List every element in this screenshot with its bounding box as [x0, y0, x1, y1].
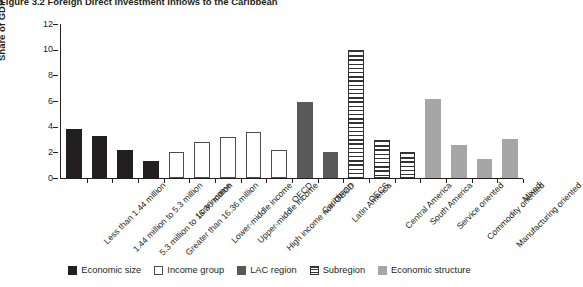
legend-swatch-icon	[154, 266, 163, 275]
legend-item-lac[interactable]: LAC region	[237, 265, 297, 275]
bar-subregion[interactable]	[374, 140, 390, 179]
legend-item-label: Economic size	[81, 265, 141, 275]
figure-title-text: Figure 3.2 Foreign Direct Investment Inf…	[0, 0, 278, 7]
y-axis-tick-labels: 024681012	[27, 24, 53, 179]
bar-income[interactable]	[194, 142, 210, 178]
bar-lac[interactable]	[323, 152, 339, 178]
y-axis-title: Share of GDP, %	[0, 0, 7, 61]
legend-swatch-icon	[378, 266, 387, 275]
y-tick-label: 12	[27, 20, 53, 29]
bar-structure[interactable]	[425, 99, 441, 178]
legend-item-label: LAC region	[250, 265, 297, 275]
legend-item-size[interactable]: Economic size	[68, 265, 141, 275]
bar-size[interactable]	[143, 161, 159, 178]
y-tick-label: 4	[27, 122, 53, 131]
x-axis-tick-labels: Less than 1.44 million1.44 million to 5.…	[0, 181, 539, 259]
y-tick-mark	[53, 75, 58, 76]
y-tick-mark	[53, 178, 58, 179]
y-tick-mark	[53, 127, 58, 128]
legend-item-subregion[interactable]: Subregion	[310, 265, 365, 275]
legend-item-income[interactable]: Income group	[154, 265, 224, 275]
y-tick-label: 6	[27, 97, 53, 106]
bar-structure[interactable]	[477, 159, 493, 178]
legend-item-label: Subregion	[323, 265, 365, 275]
bar-chart: Share of GDP, % 024681012 Less than 1.44…	[0, 9, 539, 257]
bar-structure[interactable]	[451, 145, 467, 178]
legend-swatch-icon	[237, 266, 246, 275]
x-tick-label: Caribbean	[320, 181, 354, 215]
legend-item-label: Income group	[167, 265, 224, 275]
bar-income[interactable]	[220, 137, 236, 178]
bar-income[interactable]	[169, 152, 185, 178]
plot-area	[61, 24, 523, 178]
y-tick-mark	[53, 152, 58, 153]
chart-legend: Economic sizeIncome groupLAC regionSubre…	[0, 262, 539, 278]
bar-lac[interactable]	[297, 102, 313, 178]
x-tick-label: Less than 1.44 million	[102, 181, 167, 246]
bar-structure[interactable]	[502, 139, 518, 178]
bar-subregion[interactable]	[400, 152, 416, 178]
y-tick-mark	[53, 50, 58, 51]
legend-item-label: Economic structure	[391, 265, 471, 275]
y-tick-mark	[53, 101, 58, 102]
y-tick-label: 8	[27, 71, 53, 80]
legend-item-structure[interactable]: Economic structure	[378, 265, 471, 275]
bar-size[interactable]	[66, 129, 82, 178]
bar-subregion[interactable]	[348, 50, 364, 178]
bar-size[interactable]	[117, 150, 133, 178]
bar-income[interactable]	[246, 132, 262, 178]
bar-size[interactable]	[92, 136, 108, 178]
y-tick-label: 10	[27, 45, 53, 54]
legend-swatch-icon	[310, 266, 319, 275]
y-tick-mark	[53, 24, 58, 25]
bar-income[interactable]	[271, 150, 287, 178]
y-tick-label: 2	[27, 148, 53, 157]
legend-swatch-icon	[68, 266, 77, 275]
figure-title: Figure 3.2 Foreign Direct Investment Inf…	[0, 0, 539, 9]
